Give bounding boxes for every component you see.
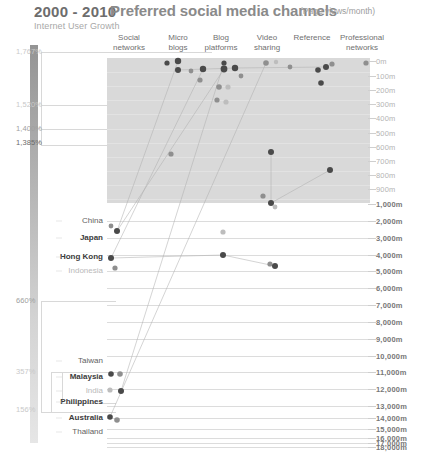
column-header-line1: Video: [257, 33, 277, 42]
growth-tick-1: 1,767%: [16, 47, 42, 56]
column-header-line2: networks: [113, 43, 145, 52]
connector-line: [223, 255, 275, 266]
plot-panel: [107, 58, 370, 203]
axis-tick-21: [368, 372, 376, 373]
axis-tick-17: [368, 305, 376, 306]
gridline-21: [107, 372, 370, 373]
value-tick-12: 2,000m: [376, 217, 403, 226]
gridline-14: [107, 255, 370, 256]
value-tick-11: 1,000m: [376, 200, 403, 209]
column-header-line1: Reference: [294, 33, 331, 42]
gridline-18: [107, 322, 370, 323]
axis-tick-9: [368, 175, 376, 176]
column-header-6: Professionalnetworks: [332, 33, 392, 52]
gridline-25: [107, 429, 370, 430]
axis-tick-10: [368, 189, 376, 190]
value-tick-15: 5,000m: [376, 267, 403, 276]
data-point-28: [273, 205, 278, 210]
country-label-australia: Australia: [0, 413, 103, 422]
value-tick-13: 3,000m: [376, 234, 403, 243]
axis-tick-6: [368, 133, 376, 134]
growth-tick-4: 1,385%: [16, 138, 42, 147]
gridline-27: [107, 443, 370, 444]
country-label-taiwan: Taiwan: [0, 356, 103, 365]
gridline-24: [107, 418, 370, 419]
axis-tick-8: [368, 161, 376, 162]
axis-tick-25: [368, 429, 376, 430]
column-header-line2: networks: [346, 43, 378, 52]
chart-unit: (Page views/month): [300, 6, 375, 16]
axis-tick-18: [368, 322, 376, 323]
country-label-japan: Japan: [0, 233, 103, 242]
country-label-india: India: [0, 386, 103, 395]
axis-tick-2: [368, 76, 376, 77]
value-tick-10: 900m: [376, 185, 396, 194]
axis-tick-13: [368, 238, 376, 239]
country-label-hong-kong: Hong Kong: [0, 252, 103, 261]
axis-tick-26: [368, 438, 376, 439]
country-label-thailand: Thailand: [0, 427, 103, 436]
gridline-12: [107, 221, 370, 222]
page-subtitle: Internet User Growth: [34, 21, 120, 31]
column-header-line1: Micro: [168, 33, 188, 42]
axis-tick-4: [368, 104, 376, 105]
axis-tick-22: [368, 389, 376, 390]
axis-tick-11: [368, 204, 376, 205]
gridline-13: [107, 238, 370, 239]
gridline-17: [107, 305, 370, 306]
data-point-34: [112, 265, 117, 270]
value-tick-5: 400m: [376, 114, 396, 123]
data-point-30: [114, 228, 120, 234]
column-header-line2: platforms: [205, 43, 238, 52]
gridline-28: [107, 447, 370, 448]
axis-tick-12: [368, 221, 376, 222]
value-tick-17: 7,000m: [376, 301, 403, 310]
gridline-22: [107, 389, 370, 390]
value-tick-20: 10,000m: [376, 352, 407, 361]
gridline-15: [107, 271, 370, 272]
axis-tick-28: [368, 447, 376, 448]
value-tick-25: 15,000m: [376, 425, 407, 434]
axis-tick-27: [368, 443, 376, 444]
axis-tick-5: [368, 118, 376, 119]
value-tick-21: 11,000m: [376, 368, 407, 377]
column-header-line1: Professional: [340, 33, 384, 42]
value-tick-19: 9,000m: [376, 335, 403, 344]
value-tick-22: 12,000m: [376, 385, 407, 394]
column-header-line2: sharing: [254, 43, 280, 52]
value-tick-9: 800m: [376, 171, 396, 180]
country-label-china: China: [0, 216, 103, 225]
data-point-29: [109, 224, 114, 229]
axis-tick-14: [368, 255, 376, 256]
page-title: 2000 - 2010: [34, 3, 116, 20]
growth-tick-2: 1,520%: [16, 100, 42, 109]
value-tick-24: 14,000m: [376, 414, 407, 423]
column-header-line2: blogs: [168, 43, 187, 52]
axis-tick-23: [368, 406, 376, 407]
value-tick-8: 700m: [376, 157, 396, 166]
axis-tick-15: [368, 271, 376, 272]
value-tick-28: 18,000m: [376, 443, 407, 452]
data-point-36: [272, 263, 278, 269]
gridline-20: [107, 356, 370, 357]
country-label-philippines: Philippines: [0, 397, 103, 406]
axis-tick-1: [368, 61, 376, 62]
value-tick-16: 6,000m: [376, 284, 403, 293]
growth-tick-3: 1,400%: [16, 124, 42, 133]
country-label-malaysia: Malaysia: [0, 372, 103, 381]
data-point-35: [267, 261, 272, 266]
value-tick-3: 200m: [376, 86, 396, 95]
axis-tick-19: [368, 339, 376, 340]
axis-tick-7: [368, 147, 376, 148]
axis-tick-16: [368, 288, 376, 289]
gridline-23: [107, 406, 370, 407]
data-point-31: [220, 229, 225, 234]
country-label-indonesia: Indonesia: [0, 266, 103, 275]
value-tick-6: 500m: [376, 129, 396, 138]
gridline-19: [107, 339, 370, 340]
value-tick-2: 100m: [376, 72, 396, 81]
axis-tick-24: [368, 418, 376, 419]
value-tick-7: 600m: [376, 143, 396, 152]
gridline-26: [107, 438, 370, 439]
value-tick-1: 0m: [376, 57, 387, 66]
